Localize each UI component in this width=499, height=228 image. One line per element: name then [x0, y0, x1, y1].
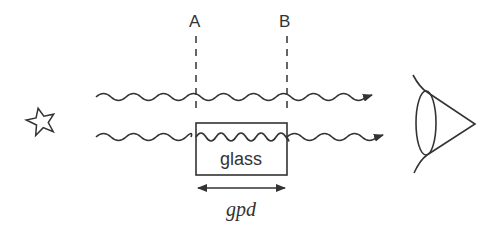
- label-b: B: [279, 12, 290, 31]
- label-a: A: [189, 12, 201, 31]
- star-icon: [24, 105, 57, 136]
- wave-glass: [96, 133, 383, 141]
- gpd-label: gpd: [226, 198, 257, 221]
- diagram-svg: A B glass gpd: [0, 0, 499, 228]
- eye-icon: [413, 75, 475, 173]
- wave-air: [96, 94, 372, 101]
- glass-label: glass: [220, 149, 262, 169]
- diagram-canvas: A B glass gpd: [0, 0, 499, 228]
